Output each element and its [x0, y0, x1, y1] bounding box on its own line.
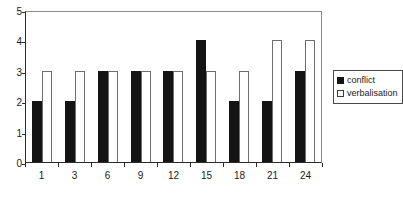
- x-tick-mark: [58, 163, 59, 167]
- x-axis-ticks: [25, 163, 322, 168]
- x-tick-label: 1: [25, 169, 58, 185]
- bar-group: [32, 12, 52, 162]
- x-tick-mark: [190, 163, 191, 167]
- bar-conflict-6: [98, 71, 108, 162]
- bar-conflict-15: [196, 40, 206, 162]
- bar-conflict-12: [163, 71, 173, 162]
- bar-verbalisation-12: [173, 71, 183, 162]
- bar-conflict-9: [131, 71, 141, 162]
- legend-item-verbalisation: verbalisation: [337, 87, 398, 100]
- y-tick-label: 2: [16, 98, 22, 108]
- x-tick-mark: [322, 163, 323, 167]
- plot-area: 012345: [25, 11, 322, 163]
- bar-conflict-24: [295, 71, 305, 162]
- bar-verbalisation-18: [239, 71, 249, 162]
- bar-group: [229, 12, 249, 162]
- x-tick-mark: [157, 163, 158, 167]
- bar-conflict-3: [65, 101, 75, 162]
- legend-label: conflict: [347, 76, 375, 85]
- bar-verbalisation-24: [305, 40, 315, 162]
- x-tick-label: 24: [289, 169, 322, 185]
- x-tick-label: 3: [58, 169, 91, 185]
- y-tick-label: 0: [16, 159, 22, 169]
- bar-group: [98, 12, 118, 162]
- bar-verbalisation-3: [75, 71, 85, 162]
- bar-group: [262, 12, 282, 162]
- bar-verbalisation-9: [141, 71, 151, 162]
- x-axis-labels: 13691215182124: [25, 169, 322, 185]
- x-tick-mark: [289, 163, 290, 167]
- x-tick-label: 12: [157, 169, 190, 185]
- legend-swatch-icon: [337, 77, 344, 84]
- x-tick-mark: [124, 163, 125, 167]
- x-tick-mark: [91, 163, 92, 167]
- bar-group: [295, 12, 315, 162]
- bar-verbalisation-6: [108, 71, 118, 162]
- y-tick-label: 4: [16, 37, 22, 47]
- y-tick-label: 3: [16, 68, 22, 78]
- x-tick-mark: [223, 163, 224, 167]
- x-tick-label: 6: [91, 169, 124, 185]
- bar-group: [65, 12, 85, 162]
- x-tick-label: 18: [223, 169, 256, 185]
- bar-conflict-21: [262, 101, 272, 162]
- bar-conflict-1: [32, 101, 42, 162]
- bar-group: [163, 12, 183, 162]
- x-tick-mark: [25, 163, 26, 167]
- x-tick-label: 15: [190, 169, 223, 185]
- bar-verbalisation-15: [206, 71, 216, 162]
- legend-item-conflict: conflict: [337, 74, 398, 87]
- x-tick-mark: [256, 163, 257, 167]
- bar-group: [196, 12, 216, 162]
- bar-group: [131, 12, 151, 162]
- bars-layer: [26, 12, 321, 162]
- y-tick-label: 1: [16, 129, 22, 139]
- x-tick-label: 21: [256, 169, 289, 185]
- y-tick-label: 5: [16, 7, 22, 17]
- legend-swatch-icon: [337, 90, 344, 97]
- bar-verbalisation-1: [42, 71, 52, 162]
- bar-verbalisation-21: [272, 40, 282, 162]
- chart-legend: conflictverbalisation: [333, 70, 403, 104]
- x-tick-label: 9: [124, 169, 157, 185]
- bar-conflict-18: [229, 101, 239, 162]
- legend-label: verbalisation: [347, 89, 398, 98]
